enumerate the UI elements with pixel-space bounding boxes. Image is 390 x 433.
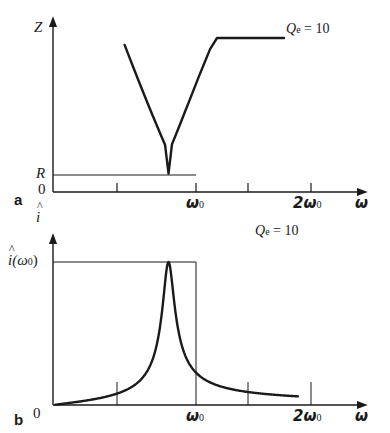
q-symbol: Q: [255, 223, 265, 238]
panel-b-peak-level-label: ^i(ω0): [8, 253, 38, 268]
resonance-figure: Z R 0 a ω0 2ω0 ω Qe = 10 ^i ^i(ω0) 0 b ω…: [0, 0, 390, 433]
panel-a-tick-label-2omega0: 2ω0: [293, 195, 321, 211]
panel-b-annotation-qe: Qe = 10: [255, 224, 298, 238]
panel-b-origin-label: 0: [33, 406, 41, 421]
omega-subscript: 0: [199, 412, 204, 423]
q-value: 10: [284, 223, 298, 238]
q-subscript: e: [265, 226, 269, 237]
q-value: 10: [315, 21, 329, 36]
i-hat-omega0-glyph: ^i(ω0): [8, 252, 38, 268]
panel-b-tick-label-omega0: ω0: [186, 408, 204, 424]
panel-a-impedance-curve: [125, 38, 284, 174]
panel-a-letter: a: [14, 192, 22, 207]
equals-sign: =: [273, 223, 281, 238]
figure-canvas: [0, 0, 390, 433]
q-subscript: e: [296, 24, 300, 35]
panel-b-letter: b: [14, 412, 23, 427]
q-symbol: Q: [286, 21, 296, 36]
omega-glyph: ω: [186, 194, 199, 212]
panel-a-annotation-qe: Qe = 10: [286, 22, 329, 36]
panel-b-tick-label-2omega0: 2ω0: [293, 408, 321, 424]
omega-glyph: ω: [186, 407, 199, 425]
two-omega-glyph: 2ω: [293, 407, 316, 425]
two-omega-glyph: 2ω: [293, 194, 316, 212]
two-omega-subscript: 0: [316, 199, 321, 210]
panel-a-y-axis-label: Z: [34, 20, 42, 35]
panel-b-x-axis-label: ω: [355, 409, 368, 424]
omega-subscript: 0: [199, 199, 204, 210]
panel-a-origin-label: 0: [38, 182, 46, 197]
panel-a-r-level-label: R: [36, 166, 45, 181]
equals-sign: =: [304, 21, 312, 36]
panel-b-y-axis-label: ^i: [36, 210, 40, 225]
two-omega-subscript: 0: [316, 412, 321, 423]
panel-b-current-curve: [55, 262, 298, 405]
panel-a-x-axis-label: ω: [355, 196, 368, 211]
panel-a-axes: [53, 26, 358, 192]
panel-a-tick-label-omega0: ω0: [186, 195, 204, 211]
i-hat-glyph: ^i: [36, 209, 40, 225]
